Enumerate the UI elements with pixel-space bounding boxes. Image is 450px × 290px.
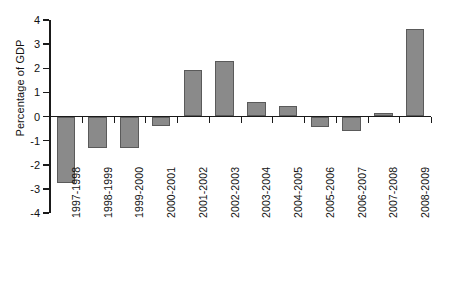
- y-tick-mark: [43, 43, 49, 45]
- x-axis-label: 2001-2002: [198, 167, 209, 218]
- x-axis-label: 1997-1998: [71, 167, 82, 218]
- y-tick-mark: [43, 116, 49, 118]
- y-tick-label-text: -1: [30, 135, 40, 147]
- y-tick-mark: [43, 19, 49, 21]
- x-axis-label: 2006-2007: [357, 167, 368, 218]
- y-tick-label-text: 1: [34, 86, 40, 98]
- bar: [184, 70, 202, 117]
- y-tick-label-text: 4: [34, 14, 40, 26]
- bar: [152, 117, 170, 127]
- bar: [279, 106, 297, 116]
- y-tick-mark: [43, 212, 49, 214]
- x-tick-mark: [209, 117, 210, 123]
- y-tick-label-text: 3: [34, 38, 40, 50]
- y-axis-title: Percentage of GDP: [14, 0, 30, 188]
- x-tick-mark: [82, 117, 83, 123]
- y-tick-label-text: 0: [34, 111, 40, 123]
- x-axis-label: 1999-2000: [134, 167, 145, 218]
- y-tick-label-text: -4: [30, 207, 40, 219]
- y-tick-mark: [43, 140, 49, 142]
- x-axis-label: 2002-2003: [230, 167, 241, 218]
- x-tick-mark: [336, 117, 337, 123]
- x-axis-label: 2000-2001: [166, 167, 177, 218]
- bar: [342, 117, 360, 132]
- bar: [120, 117, 138, 148]
- x-tick-mark: [304, 117, 305, 123]
- x-axis-label: 1998-1999: [103, 167, 114, 218]
- bar: [88, 117, 106, 148]
- y-tick-label-text: -2: [30, 159, 40, 171]
- x-axis-label: 2004-2005: [293, 167, 304, 218]
- x-axis-label: 2003-2004: [261, 167, 272, 218]
- bar: [247, 102, 265, 116]
- x-tick-mark: [272, 117, 273, 123]
- x-tick-mark: [431, 117, 432, 123]
- x-tick-mark: [145, 117, 146, 123]
- x-tick-mark: [177, 117, 178, 123]
- bar: [215, 61, 233, 116]
- x-axis-label: 2005-2006: [325, 167, 336, 218]
- x-tick-mark: [114, 117, 115, 123]
- x-tick-mark: [399, 117, 400, 123]
- bar: [311, 117, 329, 127]
- bar: [406, 29, 424, 116]
- y-tick-mark: [43, 68, 49, 70]
- y-tick-label-text: -3: [30, 183, 40, 195]
- bar: [374, 113, 392, 116]
- y-tick-mark: [43, 188, 49, 190]
- x-axis-label: 2007-2008: [388, 167, 399, 218]
- y-tick-mark: [43, 92, 49, 94]
- x-tick-mark: [241, 117, 242, 123]
- bar-chart: Percentage of GDP 43210-1-2-3-4 1997-199…: [0, 0, 450, 290]
- y-tick-label-text: 2: [34, 62, 40, 74]
- x-tick-mark: [50, 117, 51, 123]
- y-tick-mark: [43, 164, 49, 166]
- x-tick-mark: [368, 117, 369, 123]
- x-axis-label: 2008-2009: [420, 167, 431, 218]
